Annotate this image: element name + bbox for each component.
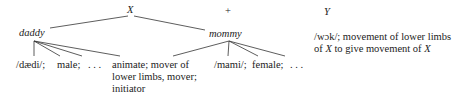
plus-sign: +	[225, 5, 231, 17]
edge-mommy-animate	[173, 41, 229, 56]
edge-mommy-female	[229, 41, 258, 56]
y-def-text: of	[314, 43, 325, 54]
animate-line-1: animate; mover of	[112, 59, 197, 71]
y-definition-line-2: of X to give movement of X	[314, 43, 451, 55]
edge-mommy-ellipsis	[229, 41, 285, 56]
y-label: Y	[324, 6, 330, 18]
x-label: X	[127, 4, 133, 16]
animate-feature-block: animate; mover of lower limbs, mover; in…	[112, 59, 197, 95]
daddy-phonology: /dædi/;	[16, 59, 45, 71]
y-definition: /wɔk/; movement of lower limbs of X to g…	[314, 31, 451, 55]
mommy-phonology: /mami/;	[214, 59, 247, 71]
animate-line-3: initiator	[112, 83, 197, 95]
mommy-ellipsis: . . .	[290, 59, 303, 71]
edge-x-daddy	[50, 16, 128, 28]
daddy-ellipsis: . . .	[88, 59, 101, 71]
node-daddy: daddy	[19, 27, 45, 39]
node-mommy: mommy	[209, 28, 242, 40]
y-def-text-mid: to give movement of	[332, 43, 424, 54]
daddy-male: male;	[57, 59, 80, 71]
edge-mommy-phon	[228, 41, 229, 56]
y-definition-line-1: /wɔk/; movement of lower limbs	[314, 31, 451, 43]
edge-x-mommy	[134, 16, 205, 30]
mommy-female: female;	[252, 59, 283, 71]
animate-line-2: lower limbs, mover;	[112, 71, 197, 83]
y-def-x2: X	[424, 43, 430, 54]
